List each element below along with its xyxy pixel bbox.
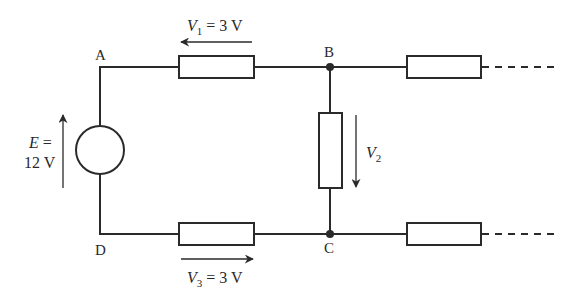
source-label-line1: E = — [28, 134, 52, 151]
resistor-top-right — [407, 56, 481, 78]
v1-label: V1 = 3 V — [187, 17, 243, 37]
source-equals: = — [39, 134, 52, 151]
node-label-d: D — [95, 242, 106, 258]
voltage-source-icon — [76, 126, 124, 174]
v2-subscript: 2 — [376, 152, 382, 164]
resistor-r2 — [319, 113, 342, 188]
node-label-c: C — [324, 240, 334, 256]
wire-source-to-d — [100, 174, 179, 234]
node-label-b: B — [324, 44, 334, 60]
v1-value: = 3 V — [202, 17, 243, 34]
resistor-r1 — [179, 56, 254, 78]
wire-a-to-source — [100, 67, 179, 126]
v3-value: = 3 V — [202, 269, 243, 286]
v3-label: V3 = 3 V — [187, 269, 243, 289]
circuit-diagram: A B C D V1 = 3 V V3 = 3 V V2 E = 12 V — [0, 0, 585, 306]
resistor-bottom-right — [407, 223, 481, 245]
resistor-r3 — [179, 223, 254, 245]
junction-b-dot — [326, 63, 334, 71]
v2-label: V2 — [366, 144, 381, 164]
node-label-a: A — [95, 47, 106, 63]
source-symbol: E — [28, 134, 39, 151]
source-value: 12 V — [24, 154, 56, 171]
junction-c-dot — [326, 230, 334, 238]
